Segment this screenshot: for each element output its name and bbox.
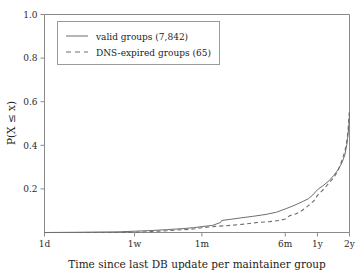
x-tick-label: 1m bbox=[195, 239, 210, 249]
legend-background bbox=[58, 22, 220, 65]
x-axis-tick-labels: 1d1w1m6m1y2y bbox=[39, 239, 356, 249]
x-axis-title: Time since last DB update per maintainer… bbox=[68, 258, 326, 270]
y-axis-tick-labels: 0.20.40.60.81.0 bbox=[23, 10, 38, 194]
y-tick-label: 0.4 bbox=[23, 141, 38, 151]
x-tick-label: 1d bbox=[39, 239, 51, 249]
y-tick-label: 0.8 bbox=[23, 53, 38, 63]
x-tick-label: 6m bbox=[278, 239, 293, 249]
series-line bbox=[45, 113, 350, 232]
series-line bbox=[45, 110, 350, 232]
y-tick-label: 0.2 bbox=[23, 184, 37, 194]
legend-label-dns-expired-groups: DNS-expired groups (65) bbox=[96, 48, 211, 58]
y-tick-label: 0.6 bbox=[23, 97, 38, 107]
ecdf-chart-figure: 0.20.40.60.81.0 1d1w1m6m1y2y P(X ≤ x) Ti… bbox=[0, 0, 358, 274]
chart-canvas: 0.20.40.60.81.0 1d1w1m6m1y2y P(X ≤ x) Ti… bbox=[0, 0, 358, 274]
x-tick-label: 1w bbox=[128, 239, 142, 249]
chart-legend: valid groups (7,842) DNS-expired groups … bbox=[58, 22, 220, 65]
legend-label-valid-groups: valid groups (7,842) bbox=[95, 32, 188, 42]
y-tick-label: 1.0 bbox=[23, 10, 38, 20]
x-tick-label: 1y bbox=[312, 239, 324, 249]
data-series-group bbox=[45, 110, 350, 232]
y-axis-title: P(X ≤ x) bbox=[5, 101, 17, 145]
x-tick-label: 2y bbox=[344, 239, 356, 249]
